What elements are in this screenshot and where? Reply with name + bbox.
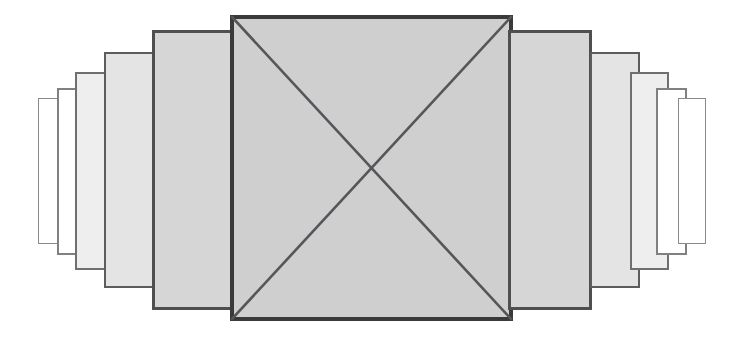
right-step-5-outermost <box>679 99 706 244</box>
left-step-1-innermost <box>153 31 234 308</box>
figure-canvas: Nested telescoping rectangles with diago… <box>0 0 734 338</box>
left-step-2 <box>105 53 153 287</box>
nested-rectangles-figure: Nested telescoping rectangles with diago… <box>0 0 734 338</box>
right-step-1-innermost <box>509 31 590 308</box>
